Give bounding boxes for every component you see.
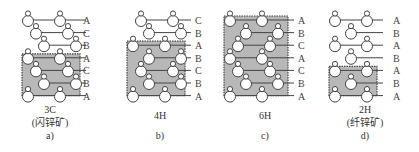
- small-atom: [275, 74, 280, 79]
- small-atom: [25, 87, 30, 92]
- large-atom: [168, 66, 179, 77]
- large-atom: [160, 41, 171, 52]
- small-atom: [235, 36, 240, 41]
- small-atom: [25, 49, 30, 54]
- large-atom: [265, 66, 276, 77]
- mineral-label-2h: (纤锌矿): [330, 117, 400, 129]
- stacking-layer-label: A: [298, 91, 305, 103]
- small-atom: [41, 36, 46, 41]
- large-atom: [233, 66, 244, 77]
- small-atom: [57, 87, 62, 92]
- subfigure-label-b: b): [145, 130, 175, 142]
- large-atom: [273, 28, 284, 39]
- stacking-layer-label: B: [298, 28, 305, 40]
- large-atom: [168, 16, 179, 27]
- small-atom: [146, 49, 151, 54]
- small-atom: [130, 87, 135, 92]
- small-atom: [57, 49, 62, 54]
- large-atom: [257, 16, 268, 27]
- small-atom: [259, 87, 264, 92]
- large-atom: [144, 79, 155, 90]
- large-atom: [225, 91, 236, 102]
- stacking-layer-label: A: [393, 65, 400, 77]
- large-atom: [31, 66, 42, 77]
- small-atom: [364, 87, 369, 92]
- large-atom: [273, 79, 284, 90]
- large-atom: [265, 41, 276, 52]
- small-atom: [348, 24, 353, 29]
- stacking-layer-label: B: [298, 78, 305, 90]
- small-atom: [348, 49, 353, 54]
- small-atom: [41, 74, 46, 79]
- large-atom: [39, 79, 50, 90]
- large-atom: [362, 16, 373, 27]
- stacking-diagram-2h: [315, 0, 419, 100]
- stacking-layer-label: A: [298, 15, 305, 27]
- large-atom: [144, 53, 155, 64]
- small-atom: [25, 11, 30, 16]
- large-atom: [330, 16, 341, 27]
- small-atom: [138, 61, 143, 66]
- stacking-layer-label: B: [195, 53, 202, 65]
- large-atom: [257, 53, 268, 64]
- stacking-layer-label: A: [83, 15, 90, 27]
- small-atom: [33, 24, 38, 29]
- large-atom: [362, 66, 373, 77]
- large-atom: [160, 91, 171, 102]
- stacking-layer-label: A: [298, 53, 305, 65]
- polytype-label-3c: 3C: [25, 104, 75, 116]
- small-atom: [235, 61, 240, 66]
- small-atom: [267, 36, 272, 41]
- panel-3c: ACBACBA 3C (闪锌矿) a): [0, 0, 105, 152]
- stacking-layer-label: A: [195, 91, 202, 103]
- stacking-layer-label: C: [195, 15, 202, 27]
- large-atom: [176, 79, 187, 90]
- small-atom: [275, 24, 280, 29]
- small-atom: [146, 74, 151, 79]
- large-atom: [55, 16, 66, 27]
- stacking-layer-label: A: [393, 91, 400, 103]
- large-atom: [257, 91, 268, 102]
- small-atom: [332, 61, 337, 66]
- small-atom: [227, 11, 232, 16]
- small-atom: [259, 11, 264, 16]
- large-atom: [346, 79, 357, 90]
- small-atom: [178, 24, 183, 29]
- stacking-layer-label: B: [393, 28, 400, 40]
- stacking-layer-label: B: [195, 28, 202, 40]
- large-atom: [225, 53, 236, 64]
- small-atom: [227, 87, 232, 92]
- small-atom: [130, 36, 135, 41]
- large-atom: [346, 28, 357, 39]
- stacking-layer-label: A: [83, 91, 90, 103]
- polytype-label-4h: 4H: [135, 110, 185, 122]
- large-atom: [55, 91, 66, 102]
- large-atom: [63, 66, 74, 77]
- small-atom: [65, 61, 70, 66]
- polytype-label-6h: 6H: [240, 110, 290, 122]
- stacking-layer-label: B: [195, 78, 202, 90]
- panel-4h: CBABCBA 4H b): [105, 0, 210, 152]
- small-atom: [138, 11, 143, 16]
- small-atom: [170, 61, 175, 66]
- large-atom: [241, 79, 252, 90]
- large-atom: [128, 41, 139, 52]
- small-atom: [243, 74, 248, 79]
- small-atom: [364, 61, 369, 66]
- stacking-layer-label: A: [195, 40, 202, 52]
- stacking-layer-label: C: [83, 28, 90, 40]
- small-atom: [73, 74, 78, 79]
- subfigure-label-d: d): [350, 130, 380, 142]
- small-atom: [57, 11, 62, 16]
- small-atom: [162, 36, 167, 41]
- mineral-label-3c: (闪锌矿): [15, 117, 85, 129]
- stacking-layer-label: A: [393, 40, 400, 52]
- large-atom: [225, 16, 236, 27]
- large-atom: [31, 28, 42, 39]
- stacking-layer-label: C: [298, 65, 305, 77]
- stacking-layer-label: B: [83, 78, 90, 90]
- small-atom: [73, 36, 78, 41]
- small-atom: [227, 49, 232, 54]
- large-atom: [330, 91, 341, 102]
- large-atom: [362, 91, 373, 102]
